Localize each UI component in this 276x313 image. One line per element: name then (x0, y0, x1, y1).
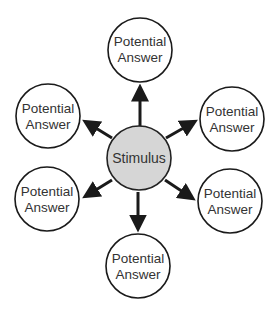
answer-node-bottom: Potential Answer (106, 234, 170, 298)
arrow-to-upper-right (166, 122, 194, 138)
answer-label-line1: Potential (206, 104, 259, 119)
answer-label-line2: Answer (207, 202, 253, 217)
stimulus-node: Stimulus (107, 126, 171, 190)
answer-label-line1: Potential (112, 251, 165, 266)
answer-label-line2: Answer (24, 200, 70, 215)
answer-label-line1: Potential (22, 101, 75, 116)
answer-node-lower-left: Potential Answer (15, 167, 79, 231)
answer-label-line2: Answer (117, 50, 163, 65)
arrow-to-lower-left (86, 180, 112, 196)
arrow-to-lower-right (165, 180, 192, 198)
answer-label-line2: Answer (209, 120, 255, 135)
answer-node-upper-right: Potential Answer (200, 87, 264, 151)
answer-label-line1: Potential (114, 34, 167, 49)
answer-node-lower-right: Potential Answer (198, 169, 262, 233)
answer-label-line1: Potential (204, 186, 257, 201)
answer-node-top: Potential Answer (108, 18, 172, 82)
diagram-canvas: Stimulus Potential Answer Potential Answ… (0, 0, 276, 313)
answer-label-line1: Potential (21, 184, 74, 199)
answer-label-line2: Answer (25, 117, 71, 132)
arrow-to-upper-left (86, 122, 112, 138)
answer-node-upper-left: Potential Answer (16, 84, 80, 148)
answer-label-line2: Answer (115, 267, 161, 282)
stimulus-label: Stimulus (112, 150, 166, 166)
